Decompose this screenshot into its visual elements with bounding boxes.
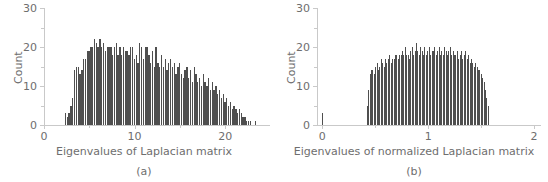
x-tick-major [44, 125, 45, 129]
y-tick-label: 30 [277, 3, 310, 14]
x-tick-major [225, 125, 226, 129]
histogram-bar [322, 113, 323, 125]
panel-b-histogram-bars [317, 8, 541, 125]
x-tick-minor [180, 125, 181, 128]
x-tick-label: 20 [205, 131, 245, 142]
y-tick-label: 30 [4, 3, 37, 14]
x-tick-minor [481, 125, 482, 128]
panel-a-x-axis-label: Eigenvalues of Laplacian matrix [24, 145, 264, 158]
x-tick-label: 1 [408, 131, 448, 142]
x-tick-major [534, 125, 535, 129]
panel-b-x-axis-label: Eigenvalues of normalized Laplacian matr… [284, 145, 544, 158]
panel-b-caption: (b) [284, 165, 544, 178]
panel-a-y-axis-label: Count [12, 51, 25, 84]
x-tick-major [135, 125, 136, 129]
x-tick-major [428, 125, 429, 129]
x-tick-minor [89, 125, 90, 128]
x-tick-label: 0 [24, 131, 64, 142]
y-tick-label: 0 [4, 120, 37, 131]
figure-container: 0102030 01020 Count Eigenvalues of Lapla… [0, 0, 548, 182]
x-tick-label: 0 [302, 131, 342, 142]
panel-b-x-axis-line [317, 125, 541, 126]
panel-a-x-axis-line [44, 125, 270, 126]
histogram-bar [250, 121, 251, 125]
panel-b: 0102030 012 Count Eigenvalues of normali… [274, 0, 548, 182]
panel-b-y-axis-label: Count [285, 51, 298, 84]
panel-a-histogram-bars [44, 8, 270, 125]
y-tick-label: 0 [277, 120, 310, 131]
x-tick-label: 10 [115, 131, 155, 142]
panel-a: 0102030 01020 Count Eigenvalues of Lapla… [0, 0, 274, 182]
histogram-bar [488, 106, 489, 126]
x-tick-label: 2 [514, 131, 548, 142]
panel-a-caption: (a) [24, 165, 264, 178]
x-tick-major [322, 125, 323, 129]
y-tick-major [313, 125, 317, 126]
histogram-bar [255, 121, 256, 125]
x-tick-minor [375, 125, 376, 128]
